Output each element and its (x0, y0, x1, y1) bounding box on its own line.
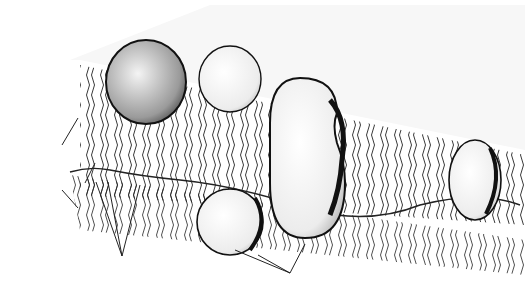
protein-large-dark (106, 40, 186, 124)
membrane-illustration (0, 0, 525, 296)
protein-bottom-round (197, 189, 263, 255)
membrane-diagram (0, 0, 525, 296)
protein-round-top (199, 46, 261, 112)
protein-right-oval (449, 140, 501, 220)
protein-spanning (270, 78, 345, 238)
